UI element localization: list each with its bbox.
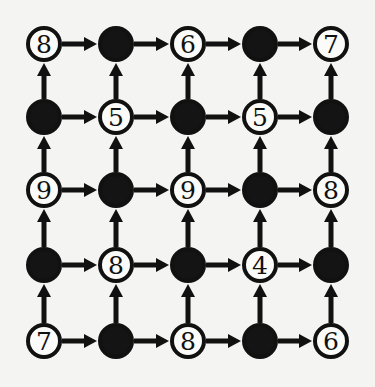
filled-node <box>242 323 278 359</box>
filled-node <box>26 247 62 283</box>
arrow-right-r3-c1 <box>134 258 169 272</box>
arrow-up-r2-c1 <box>109 136 123 172</box>
arrow-right-r4-c3 <box>278 334 312 348</box>
filled-node <box>313 99 349 135</box>
arrow-right-r3-c0 <box>62 258 97 272</box>
filled-node <box>170 99 206 135</box>
arrow-up-r3-c3 <box>253 209 267 247</box>
numbered-node: 9 <box>26 172 62 208</box>
arrow-up-r2-c0 <box>37 136 51 172</box>
arrow-up-r1-c1 <box>109 63 123 99</box>
arrow-up-r2-c2 <box>181 136 195 172</box>
filled-node <box>98 26 134 62</box>
arrow-right-r2-c1 <box>134 183 169 197</box>
arrow-up-r3-c1 <box>109 209 123 247</box>
numbered-node: 8 <box>170 323 206 359</box>
numbered-node: 8 <box>98 247 134 283</box>
numbered-node: 7 <box>313 26 349 62</box>
filled-node <box>242 26 278 62</box>
filled-node <box>170 247 206 283</box>
arrow-up-r1-c2 <box>181 63 195 99</box>
arrow-up-r1-c4 <box>324 63 338 99</box>
arrow-up-r3-c2 <box>181 209 195 247</box>
numbered-node: 8 <box>313 172 349 208</box>
numbered-node: 5 <box>242 99 278 135</box>
arrow-right-r4-c1 <box>134 334 169 348</box>
filled-node <box>313 247 349 283</box>
arrow-up-r4-c1 <box>109 284 123 323</box>
arrow-right-r2-c0 <box>62 183 97 197</box>
numbered-node: 5 <box>98 99 134 135</box>
filled-node <box>242 172 278 208</box>
arrow-up-r1-c0 <box>37 63 51 99</box>
arrow-up-r3-c4 <box>324 209 338 247</box>
arrow-right-r1-c2 <box>206 110 241 124</box>
grid-diagram: 8675599884786 <box>0 0 375 387</box>
arrow-right-r1-c3 <box>278 110 312 124</box>
arrow-up-r3-c0 <box>37 209 51 247</box>
numbered-node: 6 <box>313 323 349 359</box>
filled-node <box>26 99 62 135</box>
numbered-node: 4 <box>242 247 278 283</box>
arrow-right-r0-c2 <box>206 37 241 51</box>
numbered-node: 8 <box>26 26 62 62</box>
arrow-right-r4-c2 <box>206 334 241 348</box>
arrow-right-r0-c0 <box>62 37 97 51</box>
arrow-right-r0-c1 <box>134 37 169 51</box>
filled-node <box>98 172 134 208</box>
arrow-right-r0-c3 <box>278 37 312 51</box>
filled-node <box>98 323 134 359</box>
arrow-up-r1-c3 <box>253 63 267 99</box>
arrow-up-r2-c4 <box>324 136 338 172</box>
arrow-up-r4-c4 <box>324 284 338 323</box>
arrow-right-r1-c0 <box>62 110 97 124</box>
arrow-up-r2-c3 <box>253 136 267 172</box>
arrow-up-r4-c3 <box>253 284 267 323</box>
numbered-node: 7 <box>26 323 62 359</box>
arrow-up-r4-c2 <box>181 284 195 323</box>
arrow-right-r1-c1 <box>134 110 169 124</box>
numbered-node: 9 <box>170 172 206 208</box>
arrow-right-r3-c2 <box>206 258 241 272</box>
arrow-up-r4-c0 <box>37 284 51 323</box>
arrow-right-r2-c2 <box>206 183 241 197</box>
arrow-right-r3-c3 <box>278 258 312 272</box>
arrow-right-r2-c3 <box>278 183 312 197</box>
numbered-node: 6 <box>170 26 206 62</box>
arrow-right-r4-c0 <box>62 334 97 348</box>
